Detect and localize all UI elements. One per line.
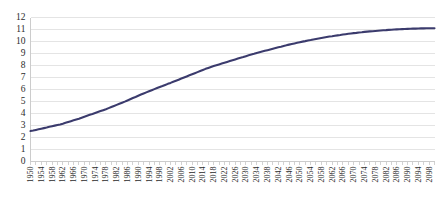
x-tick-label: 2022: [220, 167, 229, 183]
line-chart-figure: 0123456789101112 19501954195819621966197…: [0, 0, 441, 206]
y-tick-label: 12: [16, 12, 26, 22]
x-tick-label: 2046: [285, 167, 294, 183]
x-tick-label: 2018: [209, 167, 218, 183]
x-tick-label: 2066: [338, 167, 347, 183]
x-tick-label: 1974: [91, 167, 100, 183]
series-line-0: [31, 28, 435, 131]
y-tick-label: 6: [21, 84, 26, 94]
x-tick-label: 2026: [231, 167, 240, 183]
x-tick-label: 2054: [306, 167, 315, 183]
y-tick-label: 11: [16, 24, 25, 34]
y-tick-label: 8: [21, 60, 26, 70]
x-tick-label: 2010: [188, 167, 197, 183]
x-tick-label: 2014: [198, 167, 207, 183]
x-tick-label: 2042: [274, 167, 283, 183]
x-tick-label: 1958: [48, 167, 57, 183]
x-tick-label: 2078: [371, 167, 380, 183]
x-tick-label: 2034: [252, 167, 261, 183]
x-tick-label: 2070: [349, 167, 358, 183]
x-tick-label: 1990: [134, 167, 143, 183]
x-tick-label: 2006: [177, 167, 186, 183]
x-tick-label: 1986: [123, 167, 132, 183]
y-tick-label: 7: [21, 72, 26, 82]
x-tick-label: 2074: [360, 167, 369, 183]
x-axis-tick-labels: 1950195419581962196619701974197819821986…: [26, 167, 434, 183]
x-tick-label: 2038: [263, 167, 272, 183]
x-tick-label: 2098: [425, 167, 434, 183]
x-tick-label: 2094: [414, 167, 423, 183]
data-series: [31, 28, 435, 131]
y-axis-tick-labels: 0123456789101112: [16, 12, 26, 166]
chart-plot-svg: 0123456789101112 19501954195819621966197…: [0, 0, 441, 206]
x-tick-label: 2058: [317, 167, 326, 183]
y-tick-label: 5: [21, 96, 26, 106]
x-tick-label: 1994: [145, 167, 154, 183]
x-tick-label: 1970: [80, 167, 89, 183]
y-tick-label: 10: [16, 36, 26, 46]
gridlines: [31, 18, 435, 150]
x-tick-label: 1950: [26, 167, 35, 183]
x-tick-label: 1978: [101, 167, 110, 183]
x-tick-label: 2050: [295, 167, 304, 183]
y-tick-label: 1: [21, 144, 26, 154]
x-tick-label: 2030: [241, 167, 250, 183]
y-tick-label: 4: [21, 108, 26, 118]
x-tick-label: 1966: [69, 167, 78, 183]
y-tick-label: 9: [21, 48, 26, 58]
y-tick-label: 3: [21, 120, 26, 130]
x-tick-label: 1954: [37, 167, 46, 183]
x-tick-label: 2002: [166, 167, 175, 183]
x-tick-label: 1982: [112, 167, 121, 183]
y-tick-label: 0: [21, 156, 26, 166]
x-tick-label: 2062: [328, 167, 337, 183]
x-tick-label: 1962: [58, 167, 67, 183]
x-tick-label: 2082: [382, 167, 391, 183]
x-tick-label: 2090: [403, 167, 412, 183]
x-axis-tick-marks: [31, 162, 435, 165]
y-tick-label: 2: [21, 132, 26, 142]
x-tick-label: 2086: [392, 167, 401, 183]
x-tick-label: 1998: [155, 167, 164, 183]
